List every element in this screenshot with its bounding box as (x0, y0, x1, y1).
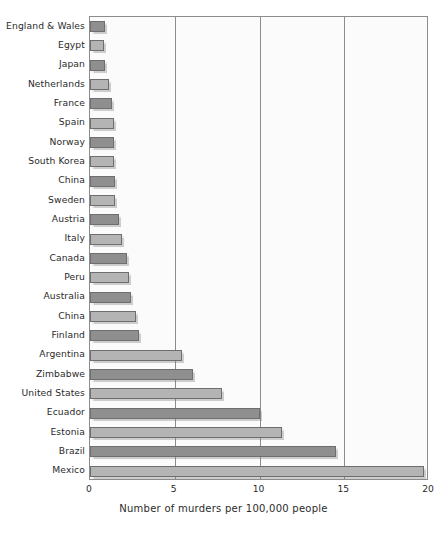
bar-row (90, 326, 427, 345)
bar-row (90, 230, 427, 249)
bar-row (90, 17, 427, 36)
bar-row (90, 75, 427, 94)
bar (90, 330, 139, 341)
bar (90, 350, 182, 361)
bar (90, 137, 114, 148)
y-axis-label: Ecuador (0, 406, 85, 417)
x-tick-label: 20 (422, 483, 434, 494)
y-axis-label: South Korea (0, 155, 85, 166)
bar (90, 369, 193, 380)
bar-row (90, 94, 427, 113)
bar-row (90, 36, 427, 55)
y-axis-label: Estonia (0, 426, 85, 437)
y-axis-label: England & Wales (0, 20, 85, 31)
y-axis-label: United States (0, 387, 85, 398)
plot-area (89, 16, 428, 480)
x-tick-label: 0 (86, 483, 92, 494)
bar-row (90, 442, 427, 461)
bar (90, 98, 112, 109)
bar (90, 60, 105, 71)
bar (90, 466, 424, 477)
bar-row (90, 210, 427, 229)
y-axis-label: Norway (0, 136, 85, 147)
y-axis-label: Australia (0, 290, 85, 301)
bar (90, 195, 115, 206)
bar (90, 292, 131, 303)
y-axis-label: China (0, 174, 85, 185)
bar (90, 311, 136, 322)
y-axis-label: Finland (0, 329, 85, 340)
bar (90, 446, 336, 457)
bar (90, 79, 109, 90)
bar-row (90, 133, 427, 152)
bar-row (90, 249, 427, 268)
y-axis-label: France (0, 97, 85, 108)
x-axis-tick-labels: 05101520 (89, 483, 428, 499)
y-axis-label: Spain (0, 116, 85, 127)
y-axis-label: Japan (0, 58, 85, 69)
y-axis-label: Italy (0, 232, 85, 243)
bar-row (90, 114, 427, 133)
x-axis-title: Number of murders per 100,000 people (0, 503, 447, 514)
y-axis-label: Sweden (0, 194, 85, 205)
y-axis-label: Peru (0, 271, 85, 282)
bar-row (90, 56, 427, 75)
y-axis-category-labels: England & WalesEgyptJapanNetherlandsFran… (0, 16, 85, 480)
y-axis-label: Zimbabwe (0, 368, 85, 379)
bar (90, 408, 260, 419)
bar-row (90, 462, 427, 481)
bar (90, 388, 222, 399)
bar (90, 176, 115, 187)
bar (90, 21, 105, 32)
bar-row (90, 268, 427, 287)
y-axis-label: Brazil (0, 445, 85, 456)
bar-row (90, 288, 427, 307)
bar (90, 214, 119, 225)
y-axis-label: Egypt (0, 39, 85, 50)
bar-row (90, 365, 427, 384)
bar (90, 272, 129, 283)
y-axis-label: Canada (0, 252, 85, 263)
bars-layer (90, 17, 427, 479)
bar-row (90, 191, 427, 210)
bar (90, 253, 127, 264)
x-tick-label: 10 (253, 483, 265, 494)
bar-row (90, 307, 427, 326)
chart-page: England & WalesEgyptJapanNetherlandsFran… (0, 0, 447, 533)
x-tick-label: 5 (171, 483, 177, 494)
bar (90, 156, 114, 167)
y-axis-label: China (0, 310, 85, 321)
bar-row (90, 152, 427, 171)
y-axis-label: Netherlands (0, 78, 85, 89)
bar-row (90, 346, 427, 365)
y-axis-label: Austria (0, 213, 85, 224)
bar (90, 234, 122, 245)
bar-row (90, 172, 427, 191)
bar (90, 40, 104, 51)
bar (90, 118, 114, 129)
y-axis-label: Mexico (0, 464, 85, 475)
bar-row (90, 423, 427, 442)
bar (90, 427, 282, 438)
y-axis-label: Argentina (0, 348, 85, 359)
bar-row (90, 384, 427, 403)
bar-row (90, 404, 427, 423)
x-tick-label: 15 (337, 483, 349, 494)
